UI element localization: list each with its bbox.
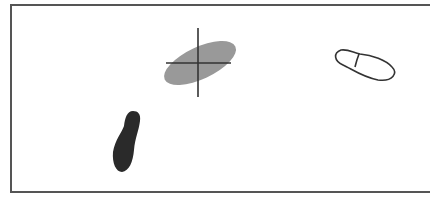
footprint-filled-icon [113, 111, 140, 172]
crosshair-icon [166, 28, 231, 97]
footprint-outline-icon [336, 50, 395, 80]
